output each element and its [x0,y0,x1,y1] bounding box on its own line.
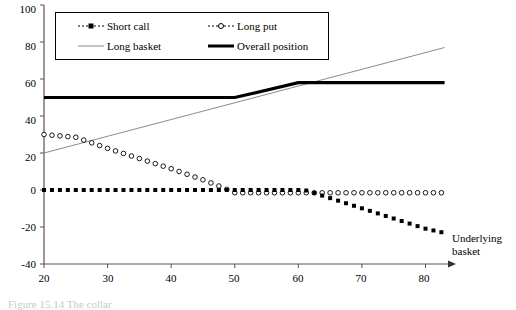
x-tick-label: 50 [219,272,249,284]
thin-gray-line-swatch-icon [78,40,104,52]
legend-label: Long put [237,20,277,32]
y-tick-label: -20 [2,221,36,233]
legend-label: Overall position [237,40,308,52]
legend-item-short-call[interactable]: Short call [78,19,149,33]
dotted-square-swatch-icon [78,20,104,32]
x-tick-label: 20 [29,272,59,284]
legend-item-long-put[interactable]: Long put [208,19,277,33]
thick-black-line-swatch-icon [208,40,234,52]
x-tick-label: 70 [346,272,376,284]
y-tick-label: 40 [2,114,36,126]
legend-item-long-basket[interactable]: Long basket [78,39,161,53]
y-tick-label: 80 [2,40,36,52]
figure-caption: Figure 15.14 The collar [8,298,112,310]
chart-legend: Short call Long put Long basket Overall … [55,12,329,60]
x-tick-label: 30 [93,272,123,284]
x-axis-arrow [448,261,456,268]
legend-label: Long basket [107,40,161,52]
series-long-basket [44,48,445,153]
y-tick-label: 20 [2,151,36,163]
y-tick-label: 0 [2,184,36,196]
series-long-put [42,132,444,195]
y-tick-label: 100 [2,3,36,15]
x-tick-label: 40 [156,272,186,284]
open-circle-swatch-icon [208,20,234,32]
y-tick-label: -40 [2,258,36,270]
legend-label: Short call [107,20,149,32]
x-tick-label: 80 [409,272,439,284]
y-tick-label: 60 [2,77,36,89]
x-axis-title-line2: basket [452,245,480,257]
x-tick-label: 60 [283,272,313,284]
x-axis-title-line1: Underlying [452,232,502,244]
series-overall-position [44,83,445,98]
legend-item-overall-position[interactable]: Overall position [208,39,308,53]
